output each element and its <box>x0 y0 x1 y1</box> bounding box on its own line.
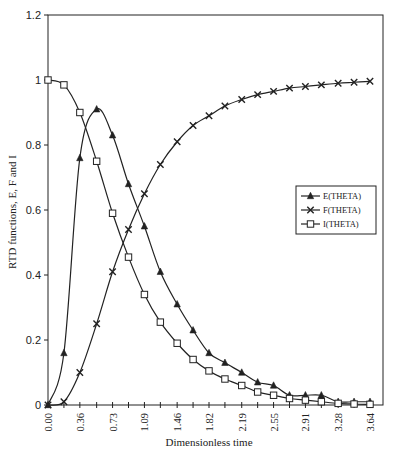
x-tick-label: 0.00 <box>43 413 54 431</box>
x-tick-label: 3.28 <box>333 413 344 431</box>
series-layer <box>45 77 373 408</box>
y-tick-label: 0.8 <box>26 139 41 151</box>
y-tick-label: 0.4 <box>26 269 41 281</box>
legend-item: I(THETA) <box>301 219 359 229</box>
x-marker <box>141 191 147 197</box>
square-marker <box>157 319 163 325</box>
triangle-marker <box>141 223 147 229</box>
square-marker <box>206 368 212 374</box>
series-e-theta <box>45 106 373 408</box>
x-tick-label: 1.82 <box>204 413 215 431</box>
triangle-marker <box>77 154 83 160</box>
series-i-theta <box>45 77 373 408</box>
legend-label: I(THETA) <box>323 219 359 229</box>
x-tick-label: 1.46 <box>172 413 183 431</box>
x-tick-label: 3.64 <box>365 412 376 431</box>
triangle-marker <box>61 349 67 355</box>
triangle-marker <box>222 359 228 365</box>
x-tick-label: 2.91 <box>300 413 311 431</box>
series-f-theta <box>45 78 373 408</box>
x-tick-label: 0.73 <box>108 413 119 431</box>
x-marker <box>125 226 131 232</box>
triangle-marker <box>125 180 131 186</box>
square-marker <box>77 109 83 115</box>
y-tick-label: 0.6 <box>26 204 41 216</box>
x-marker <box>222 103 228 109</box>
x-marker <box>239 96 245 102</box>
y-tick-label: 1.2 <box>26 9 41 21</box>
square-marker <box>222 376 228 382</box>
square-marker <box>45 77 51 83</box>
y-axis: 00.20.40.60.811.2 <box>26 9 48 411</box>
square-marker <box>174 340 180 346</box>
y-tick-label: 0 <box>35 399 41 411</box>
x-marker <box>109 269 115 275</box>
x-marker <box>190 122 196 128</box>
x-marker <box>174 139 180 145</box>
x-tick-label: 2.55 <box>269 413 280 431</box>
square-marker <box>302 397 308 403</box>
x-tick-label: 1.09 <box>139 413 150 431</box>
legend-label: F(THETA) <box>323 205 361 215</box>
square-marker <box>254 389 260 395</box>
y-tick-label: 0.2 <box>26 334 41 346</box>
y-tick-label: 1 <box>35 74 41 86</box>
x-axis: 0.000.360.731.091.461.822.192.552.913.28… <box>43 402 376 431</box>
square-marker <box>351 401 357 407</box>
x-marker <box>93 321 99 327</box>
series-line <box>48 109 370 405</box>
x-tick-label: 2.19 <box>237 413 248 431</box>
square-marker <box>286 395 292 401</box>
x-marker <box>157 161 163 167</box>
triangle-marker <box>174 301 180 307</box>
legend-label: E(THETA) <box>323 191 361 201</box>
square-marker <box>270 392 276 398</box>
x-marker <box>77 369 83 375</box>
square-marker <box>239 382 245 388</box>
square-marker <box>367 401 373 407</box>
square-marker <box>141 291 147 297</box>
y-axis-title: RTD functions, E, F and I <box>6 155 18 269</box>
x-axis-title: Dimensionless time <box>165 436 252 448</box>
square-marker <box>93 158 99 164</box>
square-marker <box>190 356 196 362</box>
triangle-marker <box>157 268 163 274</box>
square-marker <box>109 210 115 216</box>
rtd-chart: 00.20.40.60.811.2 0.000.360.731.091.461.… <box>0 0 396 458</box>
triangle-marker <box>239 369 245 375</box>
square-marker <box>61 82 67 88</box>
series-line <box>48 81 370 405</box>
x-marker <box>206 113 212 119</box>
triangle-marker <box>109 132 115 138</box>
legend: E(THETA)F(THETA)I(THETA) <box>296 186 376 234</box>
square-marker <box>125 254 131 260</box>
square-marker <box>307 221 313 227</box>
square-marker <box>335 400 341 406</box>
square-marker <box>318 399 324 405</box>
x-tick-label: 0.36 <box>75 413 86 431</box>
